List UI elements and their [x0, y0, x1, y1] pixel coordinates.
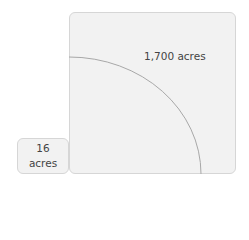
- small-area-square: 16 acres: [17, 138, 69, 174]
- large-area-label: 1,700 acres: [144, 50, 206, 62]
- small-area-unit: acres: [18, 156, 68, 171]
- small-area-value: 16: [18, 141, 68, 156]
